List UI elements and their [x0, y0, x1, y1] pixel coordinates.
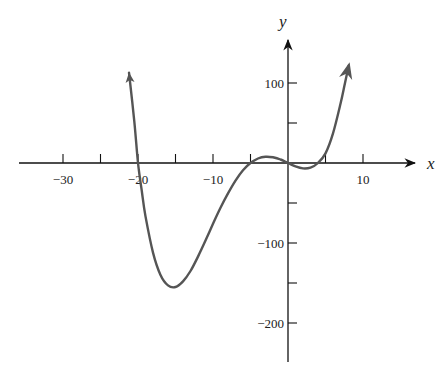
function-curve: [126, 65, 349, 287]
x-tick-label: 10: [357, 172, 370, 187]
x-tick-label: −30: [53, 172, 73, 187]
function-graph: −30−20−1010 100−100−200 x y: [0, 0, 443, 377]
y-tick-label: −100: [257, 236, 284, 251]
x-axis: −30−20−1010: [19, 154, 415, 187]
curve-path: [129, 65, 349, 287]
y-tick-label: 100: [265, 76, 285, 91]
x-tick-label: −10: [203, 172, 223, 187]
x-tick-label: −20: [128, 172, 148, 187]
y-axis: 100−100−200: [257, 40, 297, 362]
x-axis-label: x: [426, 154, 435, 173]
y-axis-label: y: [277, 12, 287, 31]
y-tick-label: −200: [257, 316, 284, 331]
